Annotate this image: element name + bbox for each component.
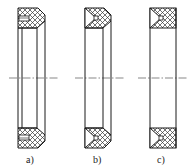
panel-c-label: c) [157,154,165,166]
panel-a-label: a) [26,154,34,166]
panel-b-label: b) [93,154,101,166]
seal-diagram: a) b) c) [0,0,192,168]
